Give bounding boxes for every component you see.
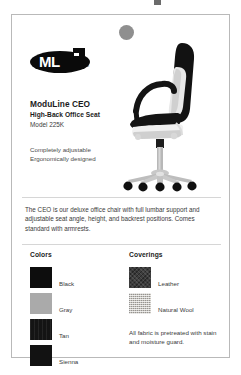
logo-flag-mark [73,48,85,65]
covering-swatch-natural-wool[interactable] [129,293,151,314]
fabric-note-text: All fabric is pretreated with stain and … [129,328,224,346]
color-swatch-tan[interactable] [30,319,52,340]
section-divider [22,197,221,198]
covering-swatch-row[interactable]: Leather [129,267,229,288]
office-chair-photo [120,33,223,195]
color-swatch-black[interactable] [30,267,52,288]
card-top-section: ML MODULINE ModuLine CEO High-Back Offic… [12,15,229,197]
fabric-treatment-note: All fabric is pretreated with stain and … [129,328,224,346]
covering-label: Leather [158,280,179,288]
logo-subtext: MODULINE [74,65,98,68]
description-text: The CEO is our deluxe office chair with … [25,205,217,233]
product-description: The CEO is our deluxe office chair with … [25,205,217,233]
colors-column: Colors Black Gray Tan Sienna [12,251,121,371]
section-divider [22,244,221,245]
logo-wordmark: ML [39,53,60,70]
color-swatch-row[interactable]: Black [30,267,121,288]
color-swatch-row[interactable]: Gray [30,293,121,314]
covering-swatch-leather[interactable] [129,267,151,288]
page-top-artifact [154,0,161,5]
color-swatch-row[interactable]: Tan [30,319,121,340]
covering-label: Natural Wool [158,306,194,314]
color-label: Tan [59,332,69,340]
moduline-logo: ML MODULINE [30,48,98,75]
options-columns: Colors Black Gray Tan Sienna Coverings [12,251,229,371]
logo-flag-notch [74,53,79,56]
coverings-column: Coverings Leather Natural Wool All fabri… [121,251,229,371]
color-swatch-sienna[interactable] [30,345,52,366]
color-label: Gray [59,306,72,314]
color-label: Black [59,280,74,288]
coverings-heading: Coverings [129,251,229,258]
color-swatch-row[interactable]: Sienna [30,345,121,366]
covering-swatch-row[interactable]: Natural Wool [129,293,229,314]
colors-heading: Colors [30,251,121,258]
product-spec-card: ML MODULINE ModuLine CEO High-Back Offic… [11,14,230,358]
color-swatch-gray[interactable] [30,293,52,314]
color-label: Sienna [59,358,78,366]
